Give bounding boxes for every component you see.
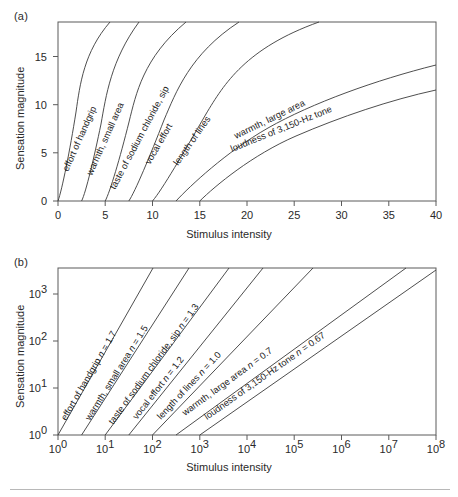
panel-b-y-tick-labels: 100 101 102 103 [29,283,47,441]
panel-a-xtick-7: 35 [383,209,395,221]
panel-a-xtick-2: 10 [146,209,158,221]
panel-a-ytick-3: 15 [35,51,47,63]
panel-b-xtick-2: 102 [143,438,161,455]
panel-b-ytick-2: 102 [29,330,47,347]
panel-b-xtick-1: 101 [96,438,114,455]
panel-a-plot: 0 5 10 15 20 25 30 35 40 0 5 10 15 [0,0,458,248]
panel-b-ytick-1: 101 [29,377,47,394]
panel-a-xtick-1: 5 [102,209,108,221]
panel-b-x-tick-labels: 100 101 102 103 104 105 106 107 108 [49,438,445,455]
panel-a-ytick-1: 5 [41,147,47,159]
panel-b-ytick-3: 103 [29,283,47,300]
panel-b-xtick-7: 107 [380,438,398,455]
panel-a-y-tick-labels: 0 5 10 15 [35,51,47,208]
panel-b-xtick-5: 105 [285,438,303,455]
figure-bottom-divider [10,489,450,490]
panel-a-ytick-2: 10 [35,99,47,111]
panel-b: (b) Sensation magnitude Stimulus intensi… [0,248,458,497]
stevens-power-law-figure: (a) Sensation magnitude Stimulus intensi… [0,0,458,497]
panel-a-xtick-4: 20 [241,209,253,221]
panel-b-xtick-8: 108 [427,438,445,455]
panel-a-x-ticks [58,201,436,206]
panel-b-xtick-6: 106 [332,438,350,455]
panel-b-xtick-0: 100 [49,438,67,455]
panel-b-ytick-0: 100 [29,424,47,441]
panel-a-xtick-8: 40 [430,209,442,221]
panel-b-xtick-4: 104 [238,438,256,455]
panel-a-xtick-6: 30 [335,209,347,221]
panel-b-plot: 100 101 102 103 104 105 106 107 108 100 … [0,248,458,497]
panel-b-xtick-3: 103 [191,438,209,455]
panel-a-xtick-5: 25 [288,209,300,221]
panel-b-y-ticks [53,294,58,435]
panel-a-y-ticks [53,57,58,202]
panel-a-ytick-0: 0 [41,195,47,207]
panel-a-x-tick-labels: 0 5 10 15 20 25 30 35 40 [55,209,442,221]
panel-a-xtick-3: 15 [194,209,206,221]
panel-a-xtick-0: 0 [55,209,61,221]
panel-b-x-ticks [58,435,436,440]
panel-a: (a) Sensation magnitude Stimulus intensi… [0,0,458,248]
